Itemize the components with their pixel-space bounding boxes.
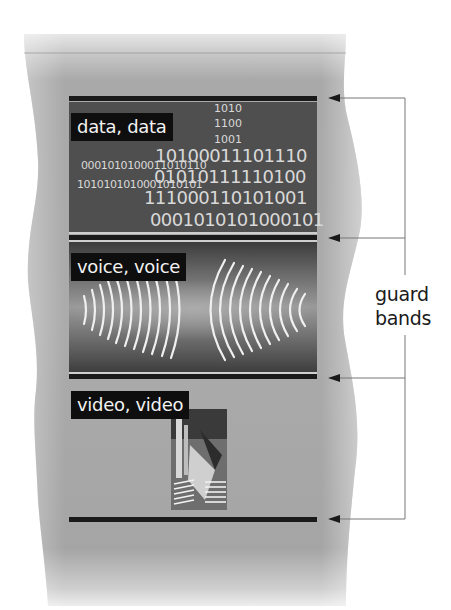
band-label-voice: voice, voice bbox=[71, 253, 186, 281]
bits-small-1: 1010 bbox=[214, 103, 242, 114]
annotation-line-2: bands bbox=[375, 306, 431, 330]
guard-band-3 bbox=[69, 374, 317, 379]
guard-band-2 bbox=[69, 235, 317, 240]
bits-small-3: 1001 bbox=[214, 134, 242, 145]
band-label-video: video, video bbox=[71, 391, 189, 419]
video-thumbnail bbox=[171, 409, 227, 510]
guard-bands-annotation: guard bands bbox=[375, 282, 431, 330]
bits-large-3: 111000110101001 bbox=[144, 189, 307, 207]
bits-small-2: 1100 bbox=[214, 118, 242, 129]
annotation-line-1: guard bbox=[375, 282, 431, 306]
guard-band-1 bbox=[69, 96, 317, 101]
guard-band-4 bbox=[69, 517, 317, 522]
bits-large-4: 0001010101000101 bbox=[150, 211, 324, 229]
band-label-data: data, data bbox=[71, 113, 173, 141]
